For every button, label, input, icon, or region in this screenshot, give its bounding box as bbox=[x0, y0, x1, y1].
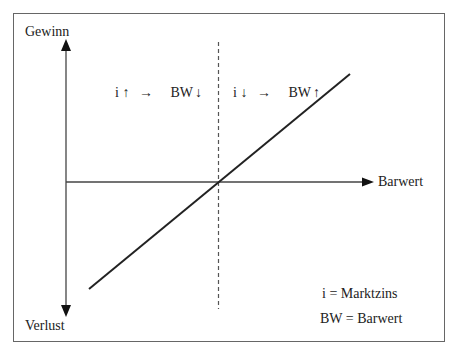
y-axis-top-label: Gewinn bbox=[25, 24, 69, 40]
x-axis-label: Barwert bbox=[378, 174, 423, 190]
interest-symbol: i bbox=[115, 85, 119, 100]
arrow-up-icon bbox=[61, 39, 71, 51]
arrow-up-small-icon: ↑ bbox=[313, 85, 320, 100]
interest-symbol: i bbox=[233, 85, 237, 100]
legend-barwert: BW = Barwert bbox=[320, 311, 402, 327]
arrow-up-small-icon: ↑ bbox=[122, 85, 129, 100]
implies-arrow-icon: → bbox=[139, 85, 153, 100]
bw-symbol: BW bbox=[170, 85, 193, 100]
bw-symbol: BW bbox=[288, 85, 311, 100]
annotation-right: i ↓ → BW↑ bbox=[233, 85, 320, 101]
annotation-left: i ↑ → BW↓ bbox=[115, 85, 202, 101]
legend-marktzins: i = Marktzins bbox=[322, 286, 398, 302]
arrow-down-small-icon: ↓ bbox=[195, 85, 202, 100]
arrow-down-icon bbox=[61, 305, 71, 317]
arrow-down-small-icon: ↓ bbox=[240, 85, 247, 100]
arrow-right-icon bbox=[362, 178, 374, 187]
y-axis-bottom-label: Verlust bbox=[25, 318, 65, 334]
implies-arrow-icon: → bbox=[257, 85, 271, 100]
